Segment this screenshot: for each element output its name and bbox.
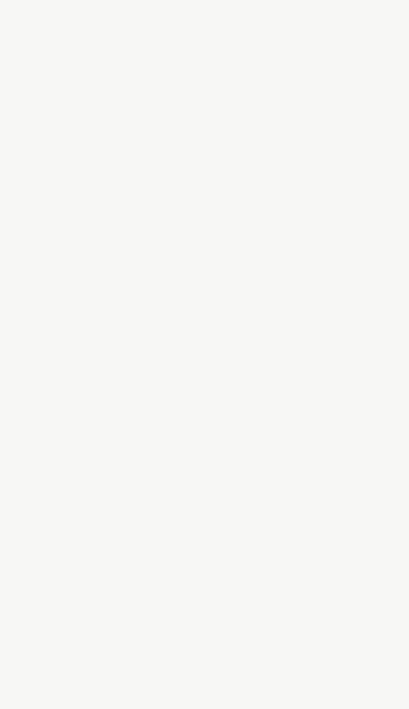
sedimentation-diagram [0, 0, 409, 709]
